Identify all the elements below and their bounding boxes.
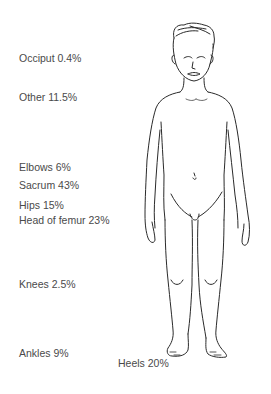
head-outline xyxy=(173,38,213,81)
right-leg xyxy=(206,220,227,357)
label-heels: Heels 20% xyxy=(118,358,169,369)
label-sacrum: Sacrum 43% xyxy=(19,180,79,191)
right-arm xyxy=(208,92,250,245)
label-knees: Knees 2.5% xyxy=(19,279,76,290)
torso-right xyxy=(224,122,227,220)
label-hips: Hips 15% xyxy=(19,200,64,211)
torso-left xyxy=(161,122,165,220)
left-arm xyxy=(145,92,180,242)
left-leg xyxy=(165,220,188,356)
label-head-of-femur: Head of femur 23% xyxy=(19,215,109,226)
label-other: Other 11.5% xyxy=(19,92,77,103)
label-ankles: Ankles 9% xyxy=(19,348,69,359)
label-occiput: Occiput 0.4% xyxy=(19,53,81,64)
label-elbows: Elbows 6% xyxy=(19,162,71,173)
